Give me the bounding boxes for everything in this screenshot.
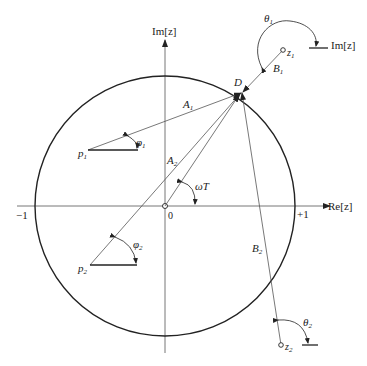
pole-p1-label: p1: [77, 147, 87, 161]
zero-z1-label: z1: [286, 47, 294, 60]
zero-z1: [281, 48, 286, 53]
vector-B1-label: B1: [273, 62, 283, 76]
zero-z2-label: z2: [284, 341, 293, 354]
origin-label: 0: [168, 210, 173, 221]
angle-phi1-label: φ1: [136, 136, 146, 150]
angle-arc-theta1: [258, 21, 317, 68]
imag-axis-label: Im[z]: [152, 25, 176, 37]
vector-A1-label: A1: [182, 98, 193, 112]
vector-A2-label: A2: [166, 154, 178, 168]
point-D-label: D: [233, 76, 242, 88]
angle-theta2-label: θ2: [303, 316, 312, 330]
plus-one-label: +1: [297, 208, 309, 220]
vector-B2-label: B2: [252, 242, 263, 256]
real-axis-label: Re[z]: [328, 200, 352, 212]
z1-ref-label: Im[z]: [331, 39, 355, 51]
angle-arc-omegaT: [182, 182, 195, 204]
z-plane-diagram: Im[z] Re[z] −1 +1 0 Im[z] D p1 p2 z1 z2 …: [0, 0, 367, 366]
angle-phi2-label: φ2: [133, 238, 143, 252]
angle-theta1-label: θ1: [264, 12, 273, 26]
pole-p2-label: p2: [77, 262, 88, 276]
minus-one-label: −1: [16, 209, 28, 221]
zero-z2: [279, 343, 284, 348]
vector-B2: [242, 93, 281, 345]
angle-omegaT-label: ωT: [195, 180, 210, 192]
